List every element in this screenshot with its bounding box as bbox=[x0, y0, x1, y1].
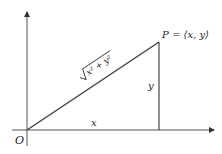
point-coords: ⟨x, y⟩ bbox=[184, 29, 210, 40]
origin-label: O bbox=[15, 134, 24, 147]
point-label: P = ⟨x, y⟩ bbox=[161, 29, 209, 40]
right-triangle-diagram: O P = ⟨x, y⟩ x y x² + y² bbox=[0, 0, 222, 154]
point-name: P bbox=[161, 29, 169, 40]
hypotenuse-label: x² + y² bbox=[77, 51, 116, 82]
horizontal-leg-label: x bbox=[91, 117, 97, 128]
point-equals: = bbox=[172, 29, 180, 40]
hypotenuse-radicand: x² + y² bbox=[84, 53, 114, 78]
vertical-leg-label: y bbox=[147, 80, 154, 91]
